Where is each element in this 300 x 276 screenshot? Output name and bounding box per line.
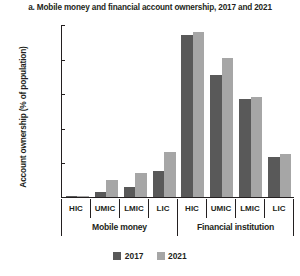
- bar-mobile-hic-2021: [77, 196, 89, 197]
- legend-item-2017: 2017: [113, 252, 143, 260]
- bar-financial-lmic-2017: [239, 99, 251, 197]
- bar-group-mobile-hic: [63, 25, 92, 197]
- x-group-label-financial-institution: Financial institution: [178, 218, 294, 236]
- legend-swatch-2021-icon: [157, 252, 165, 260]
- legend-swatch-2017-icon: [113, 252, 121, 260]
- x-label-financial-hic: HIC: [178, 199, 207, 218]
- legend-item-2021: 2021: [157, 252, 187, 260]
- x-group-label-mobile-money: Mobile money: [61, 218, 178, 236]
- x-label-financial-lic: LIC: [265, 199, 294, 218]
- bar-group-mobile-umic: [92, 25, 121, 197]
- bar-financial-umic-2021: [222, 58, 234, 197]
- bar-mobile-hic-2017: [66, 196, 78, 197]
- bar-group-financial-hic: [179, 25, 208, 197]
- chart-legend: 2017 2021: [0, 252, 300, 260]
- bar-financial-hic-2021: [193, 32, 205, 197]
- bar-group-mobile-lic: [150, 25, 179, 197]
- bar-series-container: [63, 25, 294, 197]
- bar-group-mobile-lmic: [121, 25, 150, 197]
- x-axis-category-labels: HIC UMIC LMIC LIC HIC UMIC LMIC LIC: [61, 199, 294, 218]
- x-label-mobile-umic: UMIC: [91, 199, 120, 218]
- bar-financial-lic-2021: [280, 154, 292, 197]
- x-label-financial-lmic: LMIC: [236, 199, 265, 218]
- plot-area: [61, 25, 294, 198]
- chart-title: a. Mobile money and financial account ow…: [0, 3, 300, 13]
- y-axis-title: Account ownership (% of population): [18, 37, 28, 197]
- bar-group-financial-lmic: [236, 25, 265, 197]
- x-label-mobile-hic: HIC: [61, 199, 91, 218]
- bar-mobile-lmic-2021: [135, 173, 147, 197]
- legend-label-2017: 2017: [125, 252, 144, 260]
- bar-mobile-lic-2021: [164, 152, 176, 197]
- bar-mobile-umic-2017: [95, 192, 107, 197]
- bar-mobile-umic-2021: [106, 180, 118, 197]
- chart-figure: a. Mobile money and financial account ow…: [0, 0, 300, 276]
- bar-financial-umic-2017: [210, 75, 222, 197]
- legend-label-2021: 2021: [168, 252, 187, 260]
- bar-financial-hic-2017: [181, 35, 193, 197]
- bar-mobile-lmic-2017: [124, 187, 136, 197]
- bar-group-financial-umic: [207, 25, 236, 197]
- bar-financial-lmic-2021: [251, 97, 263, 197]
- x-label-mobile-lmic: LMIC: [120, 199, 149, 218]
- x-axis-group-labels: Mobile money Financial institution: [61, 218, 294, 236]
- x-label-financial-umic: UMIC: [207, 199, 236, 218]
- x-label-mobile-lic: LIC: [149, 199, 178, 218]
- bar-mobile-lic-2017: [153, 171, 165, 197]
- bar-group-financial-lic: [265, 25, 294, 197]
- bar-financial-lic-2017: [268, 157, 280, 197]
